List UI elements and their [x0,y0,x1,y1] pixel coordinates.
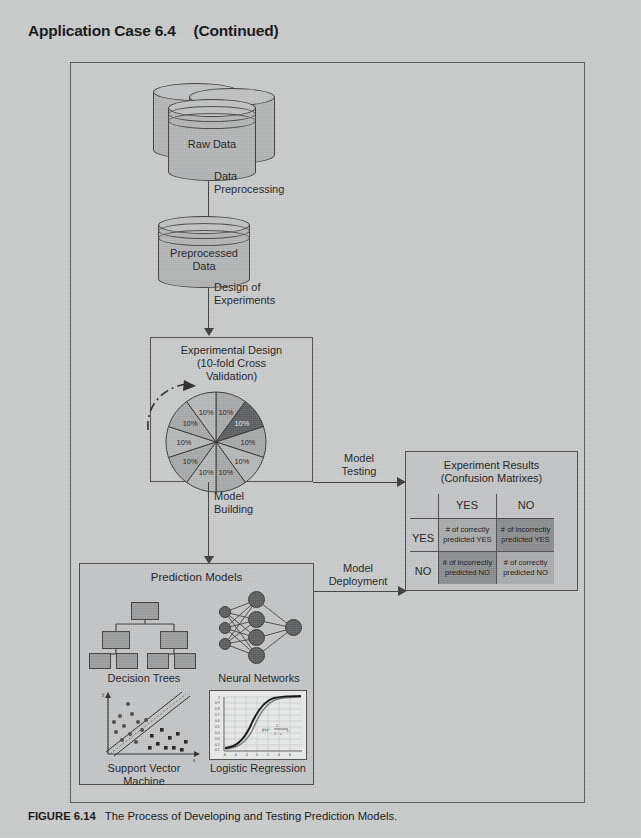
case-continued-label: (Continued) [194,22,279,39]
cm-row-header-no: NO [408,565,438,577]
arrow-label-line2: Building [214,503,334,516]
svg-text:0.2: 0.2 [215,743,220,747]
case-title-text: Application Case 6.4 [28,22,176,39]
arrow-label-line2: Experiments [214,294,344,307]
cm-cell-line1: # of correctly [503,558,548,568]
cm-cell-true-positive: # of correctly predicted YES [439,519,496,551]
arrow-label-data-preprocessing: Data Preprocessing [214,170,344,196]
svm-scatter-icon: y x [98,690,204,762]
cylinder-ring [168,113,256,129]
arrow-label-line1: Data [214,170,344,183]
svg-text:0.4: 0.4 [215,731,220,735]
prediction-models-title: Prediction Models [80,571,313,583]
svg-text:0.3: 0.3 [215,737,220,741]
model-label-text: Decision Trees [108,672,181,684]
cylinder-ring [158,230,250,246]
preprocessed-data-label-line1: Preprocessed [158,247,250,260]
model-label-decision-trees: Decision Trees [85,672,203,685]
cm-cell-false-negative: # of incorrectly predicted NO [439,552,496,584]
svg-text:0.5: 0.5 [215,725,220,729]
nn-output-node [285,619,302,636]
cm-cell-line2: predicted YES [443,535,491,545]
cm-cell-line1: # of correctly [443,525,491,535]
svg-text:0.8: 0.8 [215,707,220,711]
tree-node-left [102,631,130,649]
svg-text:0.7: 0.7 [215,713,220,717]
figure-number: FIGURE 6.14 [28,810,96,822]
arrow-label-line1: Model [214,490,334,503]
nn-hidden-node-4 [248,647,265,664]
model-label-line1: Support Vector [84,762,204,775]
arrow-label-line2: Testing [316,465,402,478]
model-label-logistic-regression: Logistic Regression [196,762,320,775]
arrow-label-design-of-experiments: Design of Experiments [214,281,344,307]
pie-slice-label: 10% [241,438,256,447]
arrow-label-model-building: Model Building [214,490,334,516]
svg-text:1: 1 [218,696,220,700]
svg-text:0.1: 0.1 [215,748,220,752]
model-label-text: Logistic Regression [210,762,306,774]
svg-text:y: y [102,692,105,697]
cm-cell-line1: # of incorrectly [501,525,550,535]
svg-text:-x: -x [286,729,289,733]
arrow-label-line2: Deployment [312,575,404,588]
arrow-label-line1: Model [316,452,402,465]
flow-arrow-head-doe [204,328,214,336]
pie-slice-label: 10% [218,407,233,416]
svg-text:0.9: 0.9 [215,701,220,705]
flow-arrow-line-model-deployment [314,591,400,592]
svg-text:0.6: 0.6 [215,719,220,723]
logistic-curve-icon: 1 0.9 0.8 0.7 0.6 0.5 0.4 0.3 0.2 0.1 -6… [210,691,308,761]
model-label-svm: Support Vector Machine [84,762,204,788]
tree-node-right [160,631,188,649]
tree-leaf-3 [147,653,169,669]
nn-hidden-node-2 [248,611,265,628]
pie-slice-label: 10% [234,419,249,428]
svg-text:f(x)=: f(x)= [262,727,271,732]
preprocessed-data-cylinder: Preprocessed Data [158,216,250,288]
cm-col-header-yes: YES [439,499,495,511]
cm-cell-false-positive: # of incorrectly predicted YES [497,519,554,551]
nn-input-node-2 [219,622,231,634]
svg-text:1 + e: 1 + e [274,731,282,736]
pie-slice-label: 10% [183,456,198,465]
logistic-regression-panel: 1 0.9 0.8 0.7 0.6 0.5 0.4 0.3 0.2 0.1 -6… [209,690,307,760]
confusion-matrix-title: Experiment Results (Confusion Matrixes) [406,459,577,485]
raw-data-label: Raw Data [168,138,256,151]
nn-hidden-node-1 [248,591,265,608]
pie-slice-label: 10% [218,468,233,477]
figure-caption: FIGURE 6.14The Process of Developing and… [28,810,397,822]
svg-text:-2: -2 [245,753,248,757]
page-title: Application Case 6.4(Continued) [28,22,278,40]
tree-leaf-4 [174,653,196,669]
arrow-label-model-testing: Model Testing [316,452,402,478]
page-root: Application Case 6.4(Continued) Raw Data… [0,0,641,838]
model-label-line2: Machine [84,775,204,788]
tree-leaf-2 [116,653,138,669]
cm-cell-line2: predicted NO [503,568,548,578]
preprocessed-data-label-line2: Data [158,260,250,273]
figure-caption-text: The Process of Developing and Testing Pr… [105,810,397,822]
svg-text:6: 6 [289,753,291,757]
svg-text:2: 2 [267,753,269,757]
arrow-label-model-deployment: Model Deployment [312,562,404,588]
pie-slice-label: 10% [234,456,249,465]
cm-cell-line1: # of incorrectly [443,558,492,568]
arrow-label-line1: Design of [214,281,344,294]
svg-text:1: 1 [276,723,278,728]
pie-slice-label: 10% [199,468,214,477]
flow-arrow-line-doe [208,288,209,330]
model-label-text: Neural Networks [218,672,299,684]
flow-arrow-line-model-testing [313,482,399,483]
cm-cell-line2: predicted NO [443,568,492,578]
ed-title-line2: (10-fold Cross [151,357,312,370]
arrow-label-line2: Preprocessing [214,183,344,196]
flow-arrow-line-model-building [208,482,209,558]
nn-input-node-3 [219,638,231,650]
model-label-neural-networks: Neural Networks [200,672,318,685]
cm-col-header-no: NO [498,499,554,511]
nn-input-node-1 [219,606,231,618]
cm-cell-line2: predicted YES [501,535,550,545]
cm-title-line1: Experiment Results [406,459,577,472]
cm-row-header-yes: YES [408,532,438,544]
